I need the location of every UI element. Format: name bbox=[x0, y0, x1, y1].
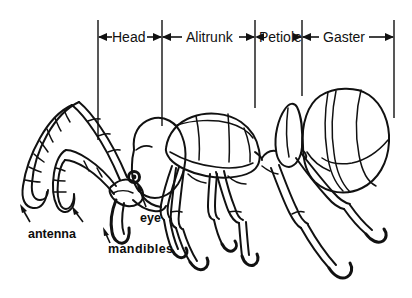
leg-middle-left-tarsus-claw bbox=[242, 254, 258, 266]
leg-hind-left-femur-a bbox=[271, 168, 301, 228]
bracket-gaster-right-arrowhead bbox=[385, 33, 394, 41]
region-label-head: Head bbox=[112, 30, 145, 44]
bracket-head-right-arrowhead bbox=[153, 33, 162, 41]
leg-middle-left-knee bbox=[229, 211, 241, 212]
leg-middle-right-femur-a bbox=[208, 174, 214, 220]
bracket-alitrunk-left-arrowhead bbox=[162, 33, 171, 41]
alitrunk-metanotal-groove bbox=[228, 114, 229, 162]
antenna-lower-funiculus-edge-b bbox=[58, 160, 74, 209]
bracket-gaster-left-arrowhead bbox=[302, 33, 311, 41]
leg-middle-right bbox=[208, 174, 236, 251]
leg-front-left-tarsus-claw bbox=[190, 258, 208, 270]
antenna-lower-scape-edge-b bbox=[65, 160, 114, 194]
alitrunk-ventral-crease bbox=[170, 152, 253, 168]
head-vertex-crease bbox=[136, 146, 152, 150]
leg-middle-right-tibia bbox=[214, 220, 222, 244]
petiole-anterior-link bbox=[262, 151, 276, 158]
region-label-alitrunk: Alitrunk bbox=[186, 30, 233, 44]
bracket-head-left-arrowhead bbox=[98, 33, 107, 41]
bracket-alitrunk-right-arrowhead bbox=[246, 33, 255, 41]
gaster-segment-line-3 bbox=[357, 90, 376, 186]
leg-hind-left-tibia-a bbox=[301, 228, 329, 268]
antenna-upper-scape-joint-2 bbox=[98, 134, 110, 136]
gaster-ventral-edge bbox=[307, 152, 330, 171]
leg-hind-right-tarsus-claw bbox=[366, 229, 386, 242]
petiole-node-crease bbox=[287, 108, 289, 157]
gaster-ventral-fold bbox=[322, 140, 388, 164]
mandibles-arrow-head bbox=[103, 227, 109, 236]
callout-label-eye: eye bbox=[140, 212, 161, 225]
leg-middle-left-femur-a bbox=[216, 172, 239, 223]
leg-front-left-knee bbox=[171, 211, 182, 212]
ant-alitrunk bbox=[166, 114, 262, 178]
antenna-lower bbox=[53, 150, 116, 212]
ant-petiole bbox=[262, 104, 306, 167]
figure-canvas: Head Alitrunk Petiole Gaster antenna eye… bbox=[0, 0, 412, 298]
leg-hind-left-femur-b bbox=[279, 165, 308, 224]
gaster-outline bbox=[303, 89, 389, 193]
leg-middle-left bbox=[216, 171, 258, 266]
leg-hind-right-tibia-b bbox=[350, 205, 372, 230]
leg-hind-left-tarsus-claw bbox=[329, 263, 352, 278]
head-clypeus-crease bbox=[113, 191, 133, 193]
region-label-gaster: Gaster bbox=[323, 30, 365, 44]
coxa-hind bbox=[262, 166, 278, 174]
eye-pupil bbox=[132, 175, 137, 180]
region-label-petiole: Petiole bbox=[259, 30, 302, 44]
antenna-upper-scape-edge-a bbox=[72, 105, 120, 180]
antenna-arrow-2-head bbox=[72, 206, 79, 215]
antenna-lower-seg-2 bbox=[54, 180, 65, 181]
leg-middle-right-tarsus-claw bbox=[222, 241, 236, 251]
leg-hind-left bbox=[271, 165, 352, 278]
eye-arrow-head bbox=[137, 183, 143, 192]
leg-middle-left-tibia-b bbox=[246, 222, 249, 255]
callout-label-antenna: antenna bbox=[28, 228, 76, 241]
antenna-upper-seg-1 bbox=[64, 110, 70, 122]
callout-label-mandibles: mandibles bbox=[108, 243, 173, 256]
alitrunk-outline bbox=[166, 114, 260, 178]
leg-middle-left-tibia-a bbox=[239, 223, 242, 256]
alitrunk-promesonotal-suture bbox=[196, 116, 199, 160]
mandible-lower bbox=[122, 203, 124, 234]
gaster-segment-line-2 bbox=[332, 91, 350, 192]
antenna-upper-scape-joint-1 bbox=[108, 150, 120, 152]
ant-gaster bbox=[303, 89, 389, 193]
